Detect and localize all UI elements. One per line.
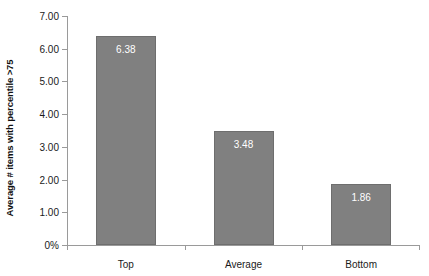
y-tick-mark — [62, 114, 67, 115]
y-tick-mark — [62, 212, 67, 213]
y-tick-label: 5.00 — [40, 76, 59, 87]
y-tick-label: 0% — [45, 240, 59, 251]
y-tick-mark — [62, 81, 67, 82]
bar-value-label: 3.48 — [215, 139, 273, 150]
y-axis-title: Average # items with percentile >75 — [0, 0, 18, 276]
bar: 1.86 — [331, 184, 391, 245]
bar-value-label: 6.38 — [97, 44, 155, 55]
plot-area: 0%1.002.003.004.005.006.007.00 TopAverag… — [67, 16, 420, 245]
y-tick-label: 6.00 — [40, 43, 59, 54]
bar-chart: Average # items with percentile >75 0%1.… — [0, 0, 429, 276]
y-tick-mark — [62, 49, 67, 50]
y-tick-mark — [62, 16, 67, 17]
x-tick-mark — [185, 245, 186, 250]
y-tick-label: 4.00 — [40, 109, 59, 120]
bar: 3.48 — [214, 131, 274, 245]
x-tick-mark — [67, 245, 68, 250]
y-tick-label: 3.00 — [40, 141, 59, 152]
y-tick-mark — [62, 147, 67, 148]
x-tick-mark — [302, 245, 303, 250]
y-tick-mark — [62, 180, 67, 181]
x-tick-label: Average — [225, 259, 262, 270]
bar-value-label: 1.86 — [332, 192, 390, 203]
bar: 6.38 — [96, 36, 156, 245]
y-tick-label: 2.00 — [40, 174, 59, 185]
y-axis-line — [67, 16, 68, 245]
x-tick-label: Top — [118, 259, 134, 270]
x-tick-mark — [419, 245, 420, 250]
x-tick-label: Bottom — [345, 259, 377, 270]
y-tick-label: 1.00 — [40, 207, 59, 218]
y-tick-label: 7.00 — [40, 11, 59, 22]
x-axis-line — [67, 245, 420, 246]
